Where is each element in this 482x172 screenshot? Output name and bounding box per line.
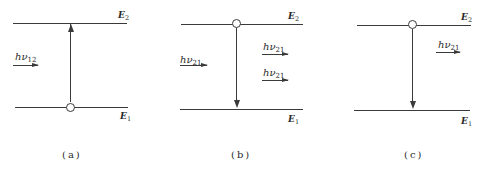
arrowhead-up-icon: [68, 24, 74, 32]
incident-photon-arrow: [180, 65, 207, 66]
arrowhead-down-icon: [410, 101, 416, 109]
upper-energy-label: E2: [118, 11, 129, 22]
emitted-photon-arrow: [436, 52, 460, 53]
atom-circle: [232, 19, 241, 28]
lower-energy-level-line: [354, 110, 470, 111]
lower-energy-label: E1: [461, 117, 472, 128]
transition-arrow-down: [236, 28, 237, 102]
panel-caption: (b): [231, 150, 251, 160]
energy-level-diagram: E2 E1 hν12 (a) E2 E1 hν21 hν21 hν21 (b) …: [0, 0, 482, 172]
arrowhead-down-icon: [234, 100, 240, 108]
upper-energy-label: E2: [288, 12, 299, 23]
upper-energy-level-line: [181, 24, 303, 25]
panel-caption: (a): [62, 150, 82, 160]
lower-energy-label: E1: [120, 112, 131, 123]
transition-arrow-down: [412, 29, 413, 102]
emitted-photon-arrow-2: [262, 80, 288, 81]
panel-caption: (c): [404, 150, 423, 160]
upper-energy-label: E2: [461, 13, 472, 24]
incident-photon-arrow: [13, 65, 38, 66]
emitted-photon-arrow-1: [262, 54, 288, 55]
atom-circle: [408, 20, 417, 29]
atom-circle: [66, 103, 75, 112]
lower-energy-level-line: [180, 109, 303, 110]
transition-arrow-up: [70, 24, 71, 102]
lower-energy-label: E1: [288, 115, 299, 126]
